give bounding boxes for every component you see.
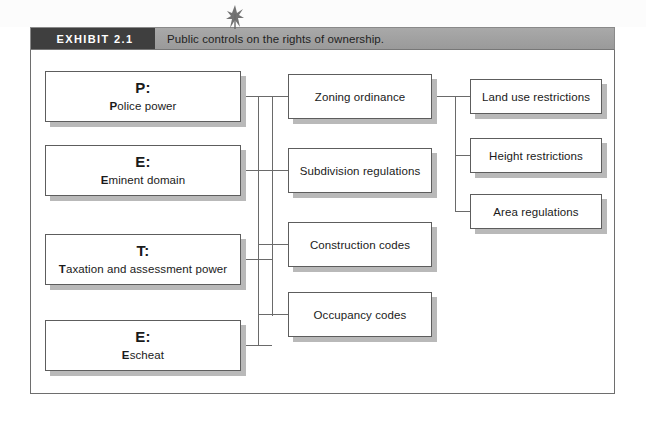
node-occupancy-codes-label: Occupancy codes bbox=[314, 309, 407, 321]
node-construction-codes-label: Construction codes bbox=[310, 239, 410, 251]
exhibit-number-tag: EXHIBIT 2.1 bbox=[31, 28, 155, 49]
node-zoning-ordinance-label: Zoning ordinance bbox=[315, 91, 405, 103]
node-police-power-rest: olice power bbox=[117, 100, 176, 112]
node-escheat-initial: E bbox=[122, 349, 130, 361]
connector-taxation-to-trunk bbox=[240, 259, 272, 260]
connector-escheat-to-trunk bbox=[240, 345, 272, 346]
node-construction-codes[interactable]: Construction codes bbox=[288, 222, 432, 267]
node-eminent-domain-rest: minent domain bbox=[109, 174, 186, 186]
connector-left-trunk bbox=[258, 96, 259, 346]
node-height-restrictions[interactable]: Height restrictions bbox=[470, 138, 602, 173]
connector-trunk-to-occupancy bbox=[258, 314, 288, 315]
node-eminent-domain-label: Eminent domain bbox=[101, 174, 186, 188]
node-escheat-letter: E: bbox=[135, 328, 151, 345]
connector-trunk-to-construction bbox=[258, 244, 288, 245]
exhibit-caption: Public controls on the rights of ownersh… bbox=[155, 28, 614, 49]
connector-trunk-to-area bbox=[455, 211, 470, 212]
node-eminent-domain[interactable]: E: Eminent domain bbox=[45, 145, 241, 196]
node-taxation-power-letter: T: bbox=[136, 242, 149, 259]
node-land-use-restrictions[interactable]: Land use restrictions bbox=[470, 79, 602, 114]
node-taxation-power-initial: T bbox=[59, 263, 66, 275]
node-escheat-label: Escheat bbox=[122, 349, 164, 363]
scan-artifact bbox=[0, 0, 646, 27]
connector-trunk-to-subdivision bbox=[258, 170, 288, 171]
node-height-restrictions-label: Height restrictions bbox=[489, 150, 583, 162]
connector-trunk-to-zoning bbox=[258, 96, 288, 97]
node-subdivision-regulations-label: Subdivision regulations bbox=[300, 165, 421, 177]
node-zoning-ordinance[interactable]: Zoning ordinance bbox=[288, 74, 432, 119]
node-taxation-power[interactable]: T: Taxation and assessment power bbox=[45, 234, 241, 285]
connector-right-trunk bbox=[455, 96, 456, 211]
node-taxation-power-label: Taxation and assessment power bbox=[59, 263, 227, 277]
node-escheat-rest: scheat bbox=[130, 349, 164, 361]
connector-left-trunk-lower bbox=[272, 96, 273, 316]
node-area-regulations[interactable]: Area regulations bbox=[470, 194, 602, 229]
node-area-regulations-label: Area regulations bbox=[493, 206, 578, 218]
node-occupancy-codes[interactable]: Occupancy codes bbox=[288, 292, 432, 337]
exhibit-header-bar: EXHIBIT 2.1 Public controls on the right… bbox=[30, 27, 615, 50]
node-subdivision-regulations[interactable]: Subdivision regulations bbox=[288, 148, 432, 193]
connector-trunk-to-landuse bbox=[455, 96, 470, 97]
node-taxation-power-rest: axation and assessment power bbox=[66, 263, 227, 275]
node-police-power-label: Police power bbox=[109, 100, 176, 114]
node-police-power[interactable]: P: Police power bbox=[45, 71, 241, 122]
node-eminent-domain-initial: E bbox=[101, 174, 109, 186]
node-eminent-domain-letter: E: bbox=[135, 153, 151, 170]
node-escheat[interactable]: E: Escheat bbox=[45, 320, 241, 371]
connector-trunk-to-height bbox=[455, 155, 470, 156]
node-police-power-letter: P: bbox=[135, 79, 151, 96]
node-land-use-restrictions-label: Land use restrictions bbox=[482, 91, 590, 103]
